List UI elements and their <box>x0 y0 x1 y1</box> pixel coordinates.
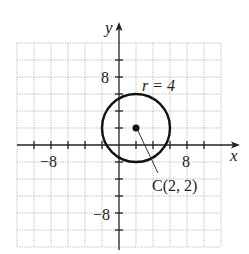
x-tick-label-8: 8 <box>182 153 190 170</box>
y-tick-label-8: 8 <box>101 69 109 86</box>
y-tick-label-neg8: −8 <box>93 206 110 223</box>
center-point <box>133 125 140 132</box>
axes <box>17 26 236 250</box>
radius-label: r = 4 <box>142 77 175 94</box>
coordinate-plane: y x −8 8 8 −8 r = 4 C(2, 2) <box>0 0 249 254</box>
x-tick-label-neg8: −8 <box>40 153 57 170</box>
center-label: C(2, 2) <box>152 177 197 195</box>
x-axis-label: x <box>229 146 238 165</box>
center-leader-line <box>138 131 158 173</box>
y-axis-label: y <box>103 18 113 37</box>
